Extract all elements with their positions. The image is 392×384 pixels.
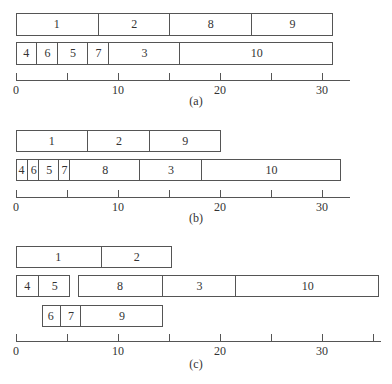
item-6: 6: [42, 306, 60, 326]
item-3: 3: [162, 276, 236, 296]
axis-tick-label: 0: [1, 344, 31, 359]
item-1: 1: [16, 247, 101, 267]
axis-tick: [67, 334, 68, 341]
item-10: 10: [235, 276, 379, 296]
axis-tick: [322, 334, 323, 341]
bin: 679: [42, 305, 163, 327]
axis-tick: [373, 334, 374, 341]
item-2: 2: [101, 247, 172, 267]
panel-c: 124583106790102030(c): [0, 0, 392, 384]
axis-tick: [169, 334, 170, 341]
axis-tick: [16, 334, 17, 341]
panel-caption: (c): [176, 357, 216, 372]
axis-line: [16, 341, 381, 342]
axis-tick: [118, 334, 119, 341]
item-4: 4: [16, 276, 38, 296]
item-7: 7: [60, 306, 81, 326]
item-5: 5: [38, 276, 70, 296]
bin: 12: [16, 246, 172, 268]
item-9: 9: [80, 306, 163, 326]
axis-tick-label: 10: [103, 344, 133, 359]
axis-tick: [220, 334, 221, 341]
axis-tick-label: 30: [307, 344, 337, 359]
bin: 45: [16, 275, 70, 297]
bin: 8310: [78, 275, 379, 297]
item-8: 8: [78, 276, 162, 296]
axis-tick: [271, 334, 272, 341]
